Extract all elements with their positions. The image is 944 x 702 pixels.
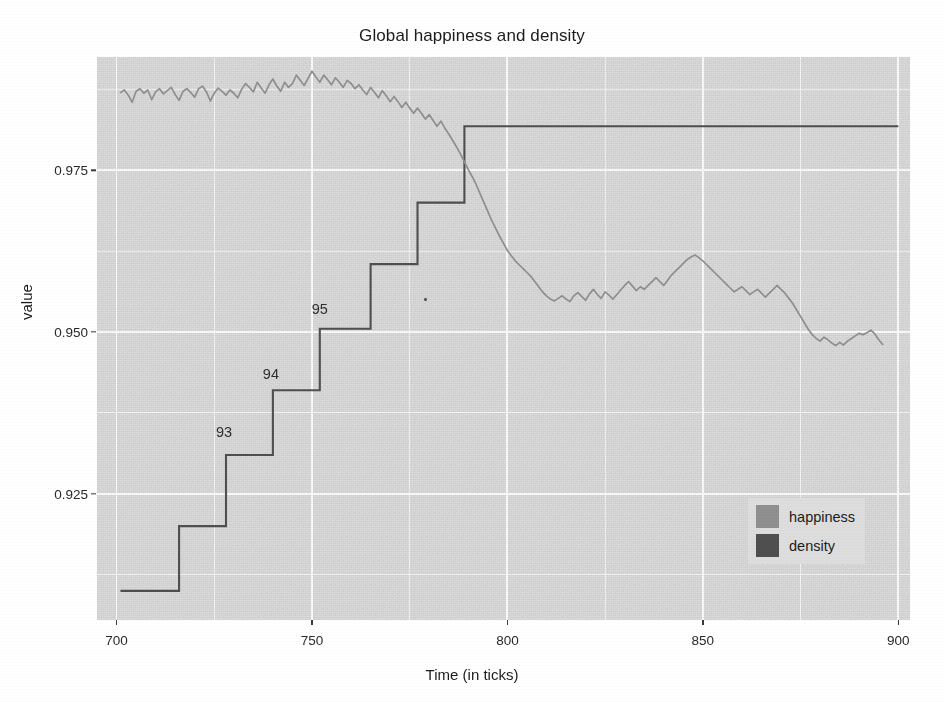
- y-axis-tick-label: 0.925: [30, 486, 88, 501]
- x-axis-tick-label: 750: [282, 633, 342, 648]
- legend-label-density: density: [789, 538, 835, 554]
- chart-figure: Global happiness and density value Time …: [0, 0, 944, 702]
- x-axis-tick-mark: [311, 620, 312, 625]
- y-axis-tick-label: 0.950: [30, 325, 88, 340]
- legend-item-happiness[interactable]: happiness: [756, 505, 855, 528]
- step-value-label: 95: [312, 301, 328, 317]
- legend-key-happiness: [756, 505, 779, 528]
- x-axis-tick-mark: [507, 620, 508, 625]
- plot-panel: 939495 happiness density: [97, 57, 910, 620]
- x-axis-tick-label: 800: [477, 633, 537, 648]
- y-axis-tick-mark: [91, 331, 96, 332]
- x-axis-tick-mark: [898, 620, 899, 625]
- x-axis-tick-label: 700: [87, 633, 147, 648]
- stray-speck-icon: [424, 298, 427, 301]
- legend-label-happiness: happiness: [789, 509, 855, 525]
- x-axis-tick-mark: [116, 620, 117, 625]
- page-title: Global happiness and density: [0, 26, 944, 46]
- y-axis-tick-mark: [91, 493, 96, 494]
- step-value-label: 94: [263, 366, 279, 382]
- x-axis-title: Time (in ticks): [0, 666, 944, 683]
- y-axis-tick-label: 0.975: [30, 163, 88, 178]
- legend-item-density[interactable]: density: [756, 534, 855, 557]
- step-value-label: 93: [216, 424, 232, 440]
- x-axis-tick-label: 850: [673, 633, 733, 648]
- y-axis-tick-labels: 0.9250.9500.975: [30, 0, 88, 702]
- legend-key-density: [756, 534, 779, 557]
- happiness-series-line: [120, 71, 882, 345]
- y-axis-tick-mark: [91, 170, 96, 171]
- x-axis-tick-mark: [702, 620, 703, 625]
- x-axis-tick-label: 900: [868, 633, 928, 648]
- legend: happiness density: [748, 498, 865, 564]
